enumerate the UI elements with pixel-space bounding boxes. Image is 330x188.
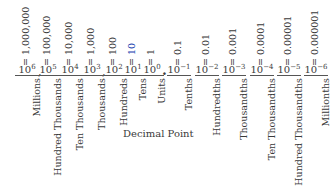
- power-of-ten: 10−6: [304, 62, 328, 76]
- place-column-hundredths: = 0.01 10−2 Hundredths: [195, 0, 219, 188]
- place-column-ten-thousandths: = 0.0001 10−4 Ten Thousandths: [250, 0, 274, 188]
- place-value-text: = 0.00001: [283, 16, 293, 66]
- place-name: Hundred Thousandths: [294, 78, 304, 186]
- place-column-tenths: = 0.1 10−1 Tenths: [167, 0, 191, 188]
- place-name: Tenths: [184, 78, 194, 110]
- place-column-units: = 1 100 Units: [140, 0, 164, 188]
- power-of-ten: 104: [58, 62, 82, 76]
- place-name: Thousandths: [239, 78, 249, 140]
- place-value-text: = 100,000: [42, 16, 52, 66]
- place-value-text: = 0.000001: [310, 10, 320, 66]
- power-of-ten: 10−4: [250, 62, 274, 76]
- place-name: Hundredths: [212, 78, 222, 136]
- place-value-text: = 1,000,000: [21, 7, 31, 66]
- place-column-millionths: = 0.000001 10−6 Millionths: [304, 0, 328, 188]
- place-name: Units: [157, 78, 167, 104]
- power-of-ten: 105: [36, 62, 60, 76]
- tens-value-highlight: 10: [126, 43, 137, 55]
- place-column-thousands: = 1,000 103 Thousands: [80, 0, 104, 188]
- power-of-ten: 10−1: [167, 62, 191, 76]
- place-value-text: = 1,000: [86, 28, 96, 66]
- place-name: Ten Thousandths: [267, 78, 277, 160]
- place-value-text: = 0.0001: [256, 22, 266, 66]
- place-value-text: = 0.001: [228, 28, 238, 66]
- power-of-ten: 103: [80, 62, 104, 76]
- power-of-ten: 10−5: [277, 62, 301, 76]
- power-of-ten: 10−2: [195, 62, 219, 76]
- place-column-hundred-thousandths: = 0.00001 10−5 Hundred Thousandths: [277, 0, 301, 188]
- place-name: Millionths: [321, 78, 330, 127]
- place-column-ten-thousands: = 10,000 104 Ten Thousands: [58, 0, 82, 188]
- place-column-thousandths: = 0.001 10−3 Thousandths: [222, 0, 246, 188]
- place-value-text: = 10,000: [64, 22, 74, 66]
- place-column-hundred-thousands: = 100,000 105 Hundred Thousands: [36, 0, 60, 188]
- power-of-ten: 100: [140, 62, 164, 76]
- power-of-ten: 10−3: [222, 62, 246, 76]
- decimal-point-label: Decimal Point: [123, 128, 194, 139]
